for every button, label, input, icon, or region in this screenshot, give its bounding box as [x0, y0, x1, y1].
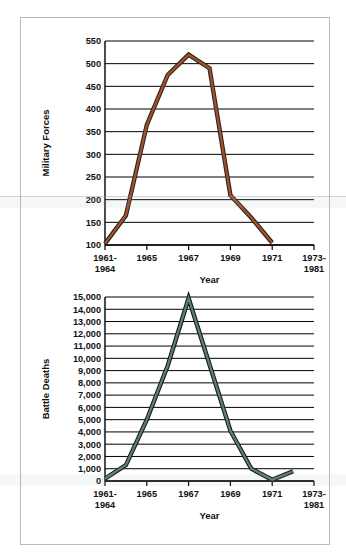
y-tick-label: 3,000 — [78, 440, 101, 450]
y-tick-label: 4,000 — [78, 427, 101, 437]
y-tick-label: 2,000 — [78, 452, 101, 462]
x-tick-label: 1965 — [137, 253, 157, 263]
y-tick-label: 150 — [86, 218, 101, 228]
y-tick-label: 500 — [86, 59, 101, 69]
y-tick-label: 450 — [86, 82, 101, 92]
y-tick-label: 100 — [86, 240, 101, 250]
y-tick-label: 400 — [86, 104, 101, 114]
x-tick-label: 1965 — [137, 489, 157, 499]
y-tick-label: 8,000 — [78, 378, 101, 388]
battle-deaths-plot: 01,0002,0003,0004,0005,0006,0007,0008,00… — [21, 286, 329, 544]
y-tick-label: 250 — [86, 172, 101, 182]
y-tick-label: 14,000 — [73, 305, 101, 315]
x-tick-label: 1967 — [178, 489, 198, 499]
y-tick-label: 15,000 — [73, 292, 101, 302]
x-tick-label: 1973- — [302, 253, 326, 263]
x-tick-label: 1964 — [95, 264, 116, 274]
x-tick-label: 1981 — [304, 500, 324, 510]
y-tick-label: 5,000 — [78, 415, 101, 425]
y-tick-label: 7,000 — [78, 390, 101, 400]
x-axis-title: Year — [199, 274, 219, 285]
x-tick-label: 1967 — [178, 253, 198, 263]
y-tick-label: 12,000 — [73, 329, 101, 339]
y-tick-label: 350 — [86, 127, 101, 137]
chart-military-forces: 1001502002503003504004505005501961-19641… — [21, 21, 329, 286]
y-axis-title: Military Forces — [40, 109, 51, 176]
y-tick-label: 6,000 — [78, 403, 101, 413]
x-tick-label: 1964 — [95, 500, 116, 510]
y-tick-label: 1,000 — [78, 464, 101, 474]
y-tick-label: 550 — [86, 36, 101, 46]
x-tick-label: 1973- — [302, 489, 326, 499]
y-tick-label: 11,000 — [73, 341, 101, 351]
x-tick-label: 1961- — [93, 253, 117, 263]
y-axis-title: Battle Deaths — [40, 359, 51, 420]
chart-battle-deaths: 01,0002,0003,0004,0005,0006,0007,0008,00… — [21, 286, 329, 544]
x-tick-label: 1971 — [262, 253, 282, 263]
x-axis-title: Year — [199, 510, 219, 521]
y-tick-label: 10,000 — [73, 354, 101, 364]
x-tick-label: 1969 — [220, 489, 240, 499]
data-line-outline — [105, 298, 293, 480]
x-tick-label: 1971 — [262, 489, 282, 499]
y-tick-label: 9,000 — [78, 366, 101, 376]
military-forces-plot: 1001502002503003504004505005501961-19641… — [21, 21, 329, 286]
y-tick-label: 300 — [86, 150, 101, 160]
figure-frame: 1001502002503003504004505005501961-19641… — [20, 17, 330, 545]
x-tick-label: 1969 — [220, 253, 240, 263]
y-tick-label: 0 — [96, 476, 101, 486]
x-tick-label: 1961- — [93, 489, 117, 499]
x-tick-label: 1981 — [304, 264, 324, 274]
y-tick-label: 13,000 — [73, 317, 101, 327]
y-tick-label: 200 — [86, 195, 101, 205]
data-line-outline — [105, 55, 272, 244]
